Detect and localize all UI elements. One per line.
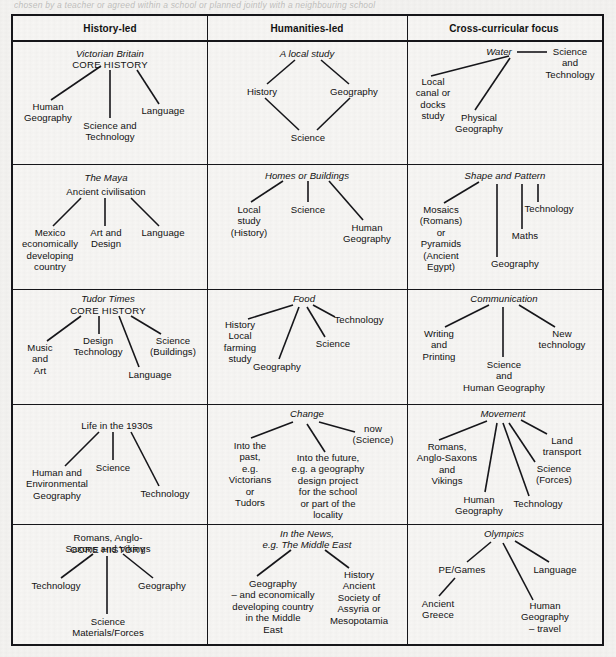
scanned-page: chosen by a teacher or agreed within a s… [0, 0, 616, 657]
node-branch-r1c3-2: Science and Technology [545, 46, 594, 80]
node-branch-r2c3-2: Maths [512, 230, 538, 241]
table-header-row: History-led Humanities-led Cross-curricu… [13, 16, 602, 42]
node-branch-r5c1-1: Science Materials/Forces [72, 616, 144, 639]
node-title-r2c2: Homes or Buildings [265, 170, 349, 181]
node-title-r5c3: Olympics [484, 528, 524, 539]
node-branch-r3c3-0: Writing and Printing [423, 328, 456, 362]
node-subtitle-r3c1: CORE HISTORY [70, 305, 146, 316]
node-branch-r4c2-0: Into the past, e.g. Victorians or Tudors [229, 440, 271, 508]
node-branch-r3c2-1: Geography [253, 361, 301, 372]
node-title-r1c3: Water [486, 46, 512, 57]
node-branch-r3c2-2: Science [316, 338, 350, 349]
row-divider-2 [13, 289, 602, 290]
cell-r2c2: Homes or Buildings Local study (History)… [207, 164, 407, 289]
node-branch-r2c3-1: Geography [491, 258, 539, 269]
node-branch-r5c1-0: Technology [31, 580, 80, 591]
node-branch-r3c1-1: Design Technology [73, 335, 122, 358]
node-branch-r4c1-0: Human and Environmental Geography [26, 467, 88, 501]
node-subtitle-r2c1: Ancient civilisation [66, 186, 145, 197]
node-branch-r4c3-1: Human Geography [455, 494, 503, 517]
node-branch-r1c2-2: Science [291, 132, 325, 143]
cell-r5c1: Romans, Anglo-Saxons and Vikings CORE HI… [13, 524, 207, 646]
cell-r4c2: Change Into the past, e.g. Victorians or… [207, 404, 407, 524]
row-divider-3 [13, 404, 602, 405]
node-subtitle-r1c1: CORE HISTORY [72, 59, 148, 70]
cell-r1c3: Water Local canal or docks study Physica… [407, 42, 601, 164]
node-branch-r2c2-0: Local study (History) [231, 204, 268, 238]
node-branch-r4c3-0: Romans, Anglo-Saxons and Vikings [417, 441, 477, 487]
node-branch-r4c2-2: now (Science) [353, 423, 394, 446]
cell-r1c1: Victorian Britain CORE HISTORY Human Geo… [13, 42, 207, 164]
node-branch-r5c2-1: History Ancient Society of Assyria or Me… [330, 569, 388, 626]
cell-r4c3: Movement Romans, Anglo-Saxons and Viking… [407, 404, 601, 524]
node-title-r4c1: Life in the 1930s [81, 420, 152, 431]
node-title-r1c1: Victorian Britain [76, 48, 144, 59]
node-branch-r4c1-1: Science [96, 462, 130, 473]
node-branch-r3c2-3: Technology [334, 314, 383, 325]
node-branch-r5c2-0: Geography – and economically developing … [231, 578, 314, 635]
node-title-r3c1: Tudor Times [81, 293, 135, 304]
node-title-r4c3: Movement [480, 408, 525, 419]
node-branch-r1c1-1: Science and Technology [83, 120, 136, 143]
column-header-cross-curricular-focus: Cross-curricular focus [407, 16, 601, 40]
node-branch-r2c2-1: Science [291, 204, 325, 215]
column-header-history-led: History-led [13, 16, 207, 40]
node-branch-r4c1-2: Technology [140, 488, 189, 499]
column-divider-2 [407, 16, 408, 644]
node-branch-r2c2-2: Human Geography [343, 222, 391, 245]
node-branch-r5c3-3: Language [533, 564, 576, 575]
node-branch-r3c3-2: New technology [539, 328, 586, 351]
connector-lines-r5c3 [407, 524, 601, 646]
node-branch-r3c1-3: Science (Buildings) [150, 335, 196, 358]
node-branch-r5c3-2: Human Geography – travel [521, 600, 569, 634]
node-branch-r1c1-0: Human Geography [24, 101, 72, 124]
node-title-r2c3: Shape and Pattern [465, 170, 546, 181]
node-branch-r5c3-1: Ancient Greece [422, 598, 454, 621]
node-branch-r1c2-1: Geography [330, 86, 378, 97]
cell-r3c3: Communication Writing and Printing Scien… [407, 289, 601, 404]
node-branch-r3c2-0: History Local farming study [224, 319, 256, 365]
cell-r3c1: Tudor Times CORE HISTORY Music and Art D… [13, 289, 207, 404]
node-title-r3c3: Communication [470, 293, 537, 304]
node-branch-r1c1-2: Language [141, 105, 184, 116]
node-branch-r2c3-0: Mosaics (Romans) or Pyramids (Ancient Eg… [420, 204, 463, 272]
node-branch-r3c1-0: Music and Art [27, 342, 52, 376]
cell-r3c2: Food History Local farming study Geograp… [207, 289, 407, 404]
page-bleed-text: chosen by a teacher or agreed within a s… [14, 0, 604, 12]
cell-r1c2: A local study History Geography Science [207, 42, 407, 164]
node-title-r5c2: In the News, e.g. The Middle East [263, 528, 352, 551]
node-branch-r2c3-3: Technology [524, 203, 573, 214]
cell-r4c1: Life in the 1930s Human and Environmenta… [13, 404, 207, 524]
node-branch-r4c3-2: Technology [513, 498, 562, 509]
row-divider-1 [13, 164, 602, 165]
node-title-r3c2: Food [293, 293, 315, 304]
node-subtitle-r5c1: CORE HISTORY [70, 544, 146, 555]
node-branch-r3c1-2: Language [128, 369, 171, 380]
node-branch-r3c3-1: Science and Human Geography [463, 359, 545, 393]
node-branch-r5c3-0: PE/Games [439, 564, 486, 575]
node-branch-r2c1-1: Art and Design [90, 227, 121, 250]
node-title-r1c2: A local study [280, 48, 335, 59]
curriculum-planning-table: History-led Humanities-led Cross-curricu… [11, 14, 604, 646]
node-title-r2c1: The Maya [84, 172, 127, 183]
column-divider-1 [207, 16, 208, 644]
node-branch-r1c2-0: History [247, 86, 277, 97]
node-branch-r4c3-3: Science (Forces) [536, 463, 572, 486]
cell-r5c2: In the News, e.g. The Middle East Geogra… [207, 524, 407, 646]
node-branch-r4c3-4: Land transport [543, 435, 581, 458]
cell-r2c1: The Maya Ancient civilisation Mexico eco… [13, 164, 207, 289]
node-branch-r1c3-1: Physical Geography [455, 112, 503, 135]
node-branch-r4c2-1: Into the future, e.g. a geography design… [292, 452, 365, 520]
column-header-humanities-led: Humanities-led [207, 16, 407, 40]
node-branch-r2c1-0: Mexico economically developing country [22, 227, 78, 273]
cell-r2c3: Shape and Pattern Mosaics (Romans) or Py… [407, 164, 601, 289]
connector-lines-r1c2 [207, 42, 407, 164]
node-branch-r5c1-2: Geography [138, 580, 186, 591]
row-divider-4 [13, 524, 602, 525]
node-title-r4c2: Change [290, 408, 324, 419]
cell-r5c3: Olympics PE/Games Ancient Greece Human G… [407, 524, 601, 646]
node-branch-r2c1-2: Language [141, 227, 184, 238]
node-branch-r1c3-0: Local canal or docks study [416, 76, 451, 122]
